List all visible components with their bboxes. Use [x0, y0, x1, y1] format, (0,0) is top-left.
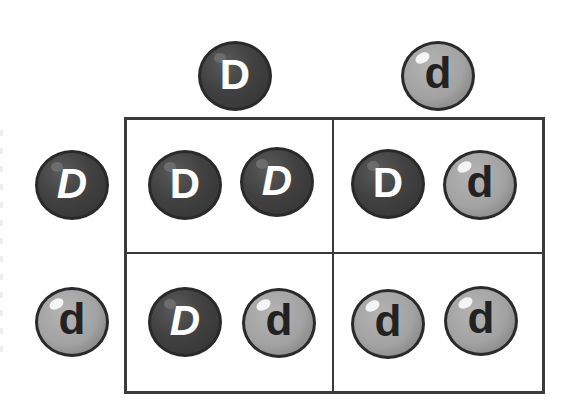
- cell-r0c1-allele-2: d: [443, 150, 517, 220]
- grid-divider-vertical: [332, 117, 334, 394]
- cell-r1c0-allele-2: d: [242, 288, 316, 358]
- allele-letter: D: [170, 163, 200, 205]
- scan-edge-noise: [0, 130, 3, 360]
- top-allele-2-ball: d: [401, 41, 475, 111]
- allele-letter: D: [373, 162, 403, 204]
- cell-r0c0-allele-1: D: [148, 150, 222, 220]
- allele-letter: d: [425, 51, 452, 95]
- top-allele-1-ball: D: [198, 41, 272, 111]
- allele-letter: D: [57, 163, 87, 205]
- allele-letter: D: [170, 300, 200, 342]
- cell-r0c1-allele-1: D: [351, 149, 425, 219]
- allele-letter: d: [468, 296, 495, 340]
- left-allele-1-ball: D: [35, 150, 109, 220]
- allele-letter: d: [375, 299, 402, 343]
- cell-r1c1-allele-2: d: [444, 286, 518, 356]
- left-allele-2-ball: d: [35, 287, 109, 357]
- grid-divider-horizontal: [124, 252, 545, 254]
- allele-letter: D: [262, 160, 292, 202]
- cell-r1c1-allele-1: d: [351, 289, 425, 359]
- allele-letter: d: [467, 160, 494, 204]
- cell-r1c0-allele-1: D: [148, 287, 222, 357]
- allele-letter: d: [59, 297, 86, 341]
- cell-r0c0-allele-2: D: [240, 147, 314, 217]
- allele-letter: D: [220, 54, 250, 96]
- allele-letter: d: [266, 298, 293, 342]
